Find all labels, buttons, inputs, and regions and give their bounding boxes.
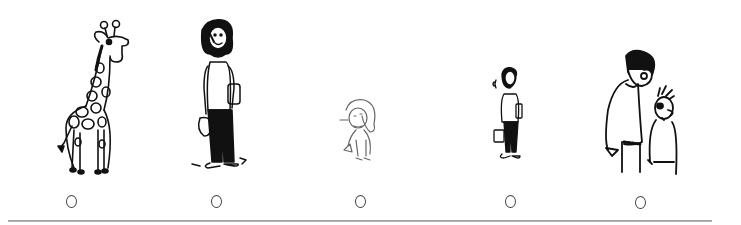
small-woman-illustration xyxy=(490,66,530,166)
man-and-boy-illustration xyxy=(598,50,698,178)
answer-option-giraffe[interactable] xyxy=(66,195,77,208)
answer-option-small-woman[interactable] xyxy=(505,195,516,208)
giraffe-illustration xyxy=(52,18,132,178)
answer-option-man-and-boy[interactable] xyxy=(635,196,646,209)
answer-option-tall-woman[interactable] xyxy=(211,195,222,208)
small-girl-illustration xyxy=(334,96,382,168)
answer-option-small-girl[interactable] xyxy=(355,195,366,208)
tall-woman-illustration xyxy=(188,18,258,170)
bottom-divider xyxy=(8,220,712,222)
